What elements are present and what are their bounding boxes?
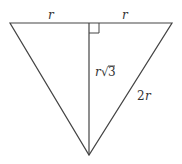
label-right-half-base: r — [122, 8, 129, 22]
label-hypotenuse-2: 2 — [137, 89, 145, 103]
label-altitude: r √ 3 — [95, 65, 116, 79]
label-hypotenuse: 2 r — [137, 89, 152, 103]
label-altitude-3: 3 — [108, 65, 116, 79]
label-hypotenuse-r: r — [145, 89, 152, 103]
label-left-half-base: r — [48, 8, 55, 22]
right-angle-marker-icon — [89, 23, 99, 33]
triangle-diagram: r r r √ 3 2 r — [0, 0, 182, 164]
